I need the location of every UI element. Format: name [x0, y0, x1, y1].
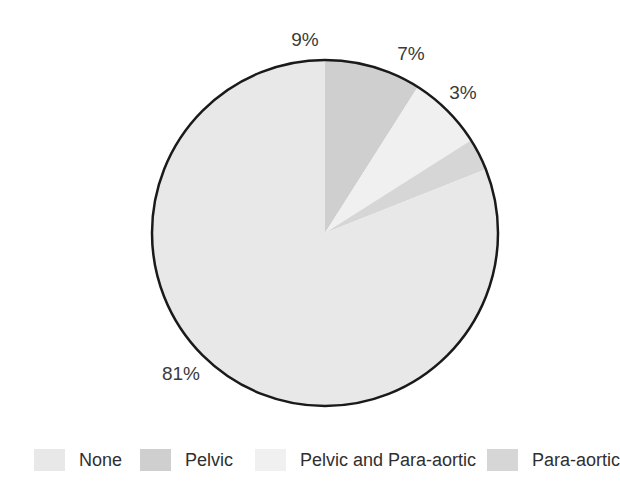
legend-item-none[interactable]: None	[34, 449, 122, 471]
chart-legend: NonePelvicPelvic and Para-aorticPara-aor…	[0, 443, 617, 477]
legend-label: Para-aortic	[532, 449, 620, 471]
legend-item-pelvic[interactable]: Pelvic	[140, 449, 233, 471]
pie-slice-group	[152, 60, 498, 406]
legend-item-para-aortic[interactable]: Para-aortic	[487, 449, 620, 471]
legend-swatch-icon	[255, 449, 286, 471]
pie-value-label-para-aortic: 3%	[449, 82, 476, 104]
pie-value-label-pelvic-and-para-aortic: 7%	[397, 43, 424, 65]
pie-plot-area: 9%7%3%81%	[0, 0, 617, 430]
pie-value-label-none: 81%	[162, 363, 200, 385]
legend-label: Pelvic and Para-aortic	[300, 449, 476, 471]
legend-swatch-icon	[487, 449, 518, 471]
legend-label: Pelvic	[185, 449, 233, 471]
legend-label: None	[79, 449, 122, 471]
pie-value-label-pelvic: 9%	[291, 29, 318, 51]
legend-item-pelvic-and-para-aortic[interactable]: Pelvic and Para-aortic	[255, 449, 476, 471]
legend-swatch-icon	[140, 449, 171, 471]
legend-swatch-icon	[34, 449, 65, 471]
pie-svg	[0, 0, 617, 430]
